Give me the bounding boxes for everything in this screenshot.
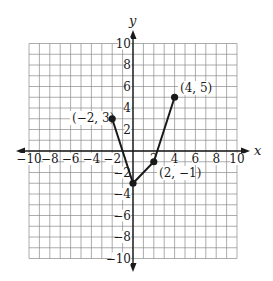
- y-tick-label: 10: [116, 37, 131, 51]
- y-tick-label: −4: [113, 187, 131, 201]
- x-axis-label: x: [254, 143, 262, 158]
- x-tick-label: −4: [83, 152, 101, 166]
- x-tick-label: 8: [212, 152, 220, 166]
- point-label-neg2-3: (−2, 3): [72, 111, 114, 125]
- y-tick-label: 8: [123, 58, 131, 72]
- data-point-marker: [129, 180, 136, 187]
- y-tick-label: 6: [123, 80, 131, 94]
- point-label-2-neg1: (2, −1): [159, 166, 201, 180]
- y-tick-label: −6: [113, 209, 131, 223]
- x-tick-label: 10: [229, 152, 244, 166]
- x-tick-label: −2: [103, 152, 121, 166]
- y-tick-label: −8: [113, 230, 131, 244]
- x-tick-label: −10: [16, 152, 41, 166]
- x-tick-label: −8: [41, 152, 59, 166]
- y-tick-label: 4: [123, 101, 131, 115]
- data-point-marker: [150, 158, 157, 165]
- x-tick-label: 4: [171, 152, 179, 166]
- coordinate-plane-chart: x y −10−8−6−4−2246810−10−8−6−4−2246810 (…: [0, 0, 273, 281]
- x-tick-label: 6: [192, 152, 200, 166]
- y-tick-label: 2: [123, 123, 131, 137]
- data-point-marker: [171, 94, 178, 101]
- x-tick-label: −6: [62, 152, 80, 166]
- y-axis-label: y: [128, 13, 137, 28]
- y-tick-label: −10: [106, 252, 131, 266]
- axes: x y: [16, 13, 262, 272]
- point-label-4-5: (4, 5): [180, 81, 212, 95]
